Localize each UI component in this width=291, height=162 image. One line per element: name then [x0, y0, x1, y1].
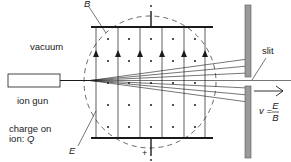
top-plate — [91, 5, 213, 27]
electric-field-label: E — [69, 146, 75, 156]
charge-prefix: ion: — [9, 133, 27, 144]
charge-symbol: Q — [27, 133, 34, 144]
ion-gun — [8, 74, 60, 87]
field-arrow-icons — [93, 50, 208, 57]
slit-leader-line — [252, 58, 266, 80]
magnetic-field-label: B — [84, 0, 90, 9]
velocity-arrow-icon — [254, 86, 283, 96]
velocity-lhs: v = — [259, 106, 272, 116]
velocity-numerator: E — [272, 101, 279, 111]
b-leader-line — [89, 7, 106, 33]
bottom-plate — [91, 138, 213, 161]
ion-gun-label: ion gun — [17, 96, 48, 106]
slit-label: slit — [262, 46, 274, 56]
charge-label-line2: ion: Q — [9, 134, 34, 144]
slit-screen — [245, 5, 251, 158]
velocity-denominator: B — [272, 113, 279, 123]
e-leader-line — [78, 111, 96, 146]
vacuum-label: vacuum — [30, 42, 63, 52]
velocity-selector-diagram — [0, 0, 291, 162]
bottom-plate-sign: + — [142, 148, 147, 158]
ion-beam — [60, 59, 291, 102]
